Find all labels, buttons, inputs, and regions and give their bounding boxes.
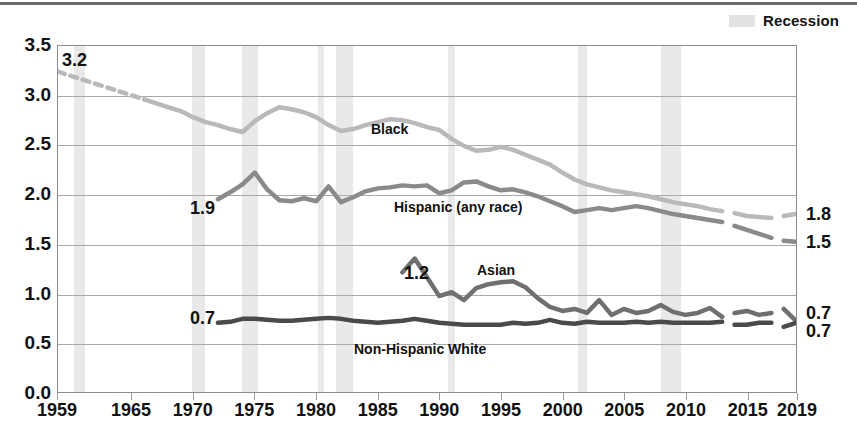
- black-end-value: 1.8: [806, 204, 831, 225]
- series-label-black: Black: [371, 121, 408, 137]
- series-label-hispanic: Hispanic (any race): [394, 199, 522, 215]
- x-axis-tick-label: 1995: [481, 400, 521, 421]
- y-axis-tick-label: 3.5: [3, 34, 51, 56]
- white-end-value: 0.7: [806, 321, 831, 342]
- series-label-white: Non-Hispanic White: [354, 341, 486, 357]
- y-axis-tick-label: 1.5: [3, 233, 51, 255]
- x-axis-tick-label: 1990: [419, 400, 459, 421]
- x-axis-tick: [748, 393, 749, 400]
- legend-label-recession: Recession: [763, 12, 839, 29]
- x-axis-tick: [501, 393, 502, 400]
- series-label-asian: Asian: [477, 262, 515, 278]
- x-axis-tick-label: 1970: [173, 400, 213, 421]
- x-axis-tick: [131, 393, 132, 400]
- legend: Recession: [729, 12, 839, 29]
- x-axis-tick: [563, 393, 564, 400]
- hispanic-end-value: 1.5: [806, 231, 831, 252]
- x-axis-tick-label: 1985: [358, 400, 398, 421]
- y-axis-tick-label: 2.5: [3, 133, 51, 155]
- x-axis-tick: [193, 393, 194, 400]
- x-axis-tick: [378, 393, 379, 400]
- x-axis-tick: [316, 393, 317, 400]
- x-axis-tick-label: 2015: [728, 400, 768, 421]
- x-axis-tick: [624, 393, 625, 400]
- x-axis-tick-label: 2019: [777, 400, 817, 421]
- chart-root: Recession 0.00.51.01.52.02.53.03.5 19591…: [0, 0, 857, 442]
- x-axis-tick-label: 1965: [111, 400, 151, 421]
- hispanic-start-value: 1.9: [190, 198, 215, 219]
- x-axis-tick-label: 2000: [543, 400, 583, 421]
- x-axis-tick-label: 2010: [666, 400, 706, 421]
- white-start-value: 0.7: [190, 308, 215, 329]
- y-axis-tick-label: 3.0: [3, 84, 51, 106]
- x-axis-tick-label: 1975: [234, 400, 274, 421]
- y-axis-tick-label: 2.0: [3, 183, 51, 205]
- black-start-value: 3.2: [62, 50, 87, 71]
- x-axis-tick: [439, 393, 440, 400]
- x-axis-tick-label: 1959: [37, 400, 77, 421]
- y-axis-tick-label: 0.5: [3, 332, 51, 354]
- x-axis-tick: [254, 393, 255, 400]
- x-axis-tick: [797, 393, 798, 400]
- top-divider: [0, 2, 857, 5]
- asian-start-value: 1.2: [404, 263, 429, 284]
- x-axis-tick: [686, 393, 687, 400]
- x-axis-tick-label: 1980: [296, 400, 336, 421]
- recession-swatch-icon: [729, 15, 755, 27]
- y-axis-tick-label: 1.0: [3, 283, 51, 305]
- x-axis-tick: [57, 393, 58, 400]
- x-axis-tick-label: 2005: [604, 400, 644, 421]
